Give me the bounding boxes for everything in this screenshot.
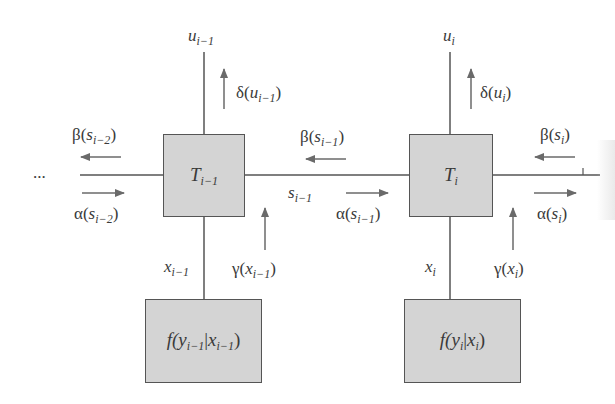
node-T-cur-label: Ti xyxy=(444,165,458,187)
var-u-prev: ui−1 xyxy=(188,27,214,47)
node-f-cur: f(yi|xi) xyxy=(404,299,521,383)
var-s-prev: si−1 xyxy=(288,184,312,204)
var-u-cur: ui xyxy=(443,27,455,47)
msg-alpha-s-i: α(si) xyxy=(537,205,567,225)
var-x-prev: xi−1 xyxy=(164,258,189,278)
msg-beta-s-i: β(si) xyxy=(540,126,570,146)
msg-alpha-s-im1: α(si−1) xyxy=(336,205,380,225)
msg-delta-u-i: δ(ui) xyxy=(480,84,511,104)
node-T-prev: Ti−1 xyxy=(163,134,245,217)
node-T-cur: Ti xyxy=(409,134,493,217)
msg-beta-s-im2: β(si−2) xyxy=(72,126,116,146)
node-f-prev: f(yi−1|xi−1) xyxy=(145,299,262,383)
ellipsis: ... xyxy=(33,164,46,181)
node-T-prev-label: Ti−1 xyxy=(190,165,218,187)
msg-delta-u-im1: δ(ui−1) xyxy=(236,84,281,104)
page-edge-shadow xyxy=(597,140,615,220)
node-f-prev-label: f(yi−1|xi−1) xyxy=(167,330,241,352)
node-f-cur-label: f(yi|xi) xyxy=(440,330,485,352)
msg-gamma-x-im1: γ(xi−1) xyxy=(232,260,276,280)
var-x-cur: xi xyxy=(425,258,436,278)
msg-alpha-s-im2: α(si−2) xyxy=(74,205,118,225)
msg-gamma-x-i: γ(xi) xyxy=(494,260,524,280)
msg-beta-s-im1: β(si−1) xyxy=(300,128,344,148)
